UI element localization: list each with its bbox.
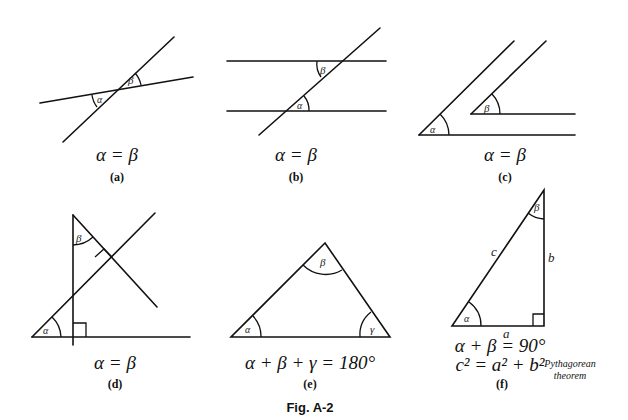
beta-arc [135, 73, 141, 85]
equation-d: α = β [94, 352, 136, 373]
line-2 [63, 37, 174, 142]
right-angle-marker-base [73, 323, 86, 337]
alpha-arc [253, 316, 261, 337]
caption-c: (c) [498, 170, 511, 184]
beta-label: β [319, 64, 326, 76]
panel-b: β α α = β (b) [227, 28, 386, 184]
beta-label: β [483, 102, 490, 114]
gamma-label: γ [370, 323, 375, 335]
panel-c: α β α = β (c) [419, 41, 575, 184]
pythagorean-note-line1: Pythagorean [543, 358, 595, 369]
side-c-label: c [491, 244, 497, 259]
alpha-label: α [245, 324, 251, 335]
alpha-arc [52, 317, 61, 337]
beta-label: β [319, 256, 326, 268]
perpendicular-line [73, 215, 157, 307]
pythagorean-note-line2: theorem [554, 370, 586, 381]
alpha-arc [304, 96, 309, 111]
beta-arc [528, 213, 544, 219]
slant-line-outer [419, 41, 514, 135]
side-b-label: b [548, 250, 555, 265]
transversal [259, 28, 380, 135]
figure-caption: Fig. A-2 [286, 400, 333, 415]
figure-a2: α β α = β (a) β α α = β (b) α β α = β (c… [0, 0, 628, 420]
triangle [231, 243, 390, 337]
equation-f: α + β = 90° [455, 335, 546, 356]
right-triangle [452, 190, 544, 326]
beta-label: β [75, 232, 82, 244]
caption-e: (e) [303, 377, 316, 391]
alpha-arc [469, 302, 481, 326]
alpha-label: α [43, 325, 49, 336]
panel-e: α β γ α + β + γ = 180° (e) Fig. A-2 [231, 243, 390, 415]
caption-f: (f) [496, 377, 508, 391]
caption-b: (b) [289, 170, 304, 184]
alpha-label: α [297, 100, 303, 111]
alpha-label: α [464, 313, 470, 324]
right-angle-marker [533, 314, 544, 326]
line-1 [40, 77, 193, 103]
panel-a: α β α = β (a) [40, 37, 193, 184]
alpha-arc [440, 114, 449, 135]
panel-d: α β α = β (d) [32, 213, 190, 391]
equation-b: α = β [275, 144, 317, 165]
alpha-label: α [97, 94, 103, 105]
equation-e: α + β + γ = 180° [245, 352, 375, 373]
diagonal-line [32, 213, 155, 337]
caption-d: (d) [108, 377, 123, 391]
beta-arc [492, 94, 500, 114]
beta-label: β [533, 201, 540, 213]
equation-a: α = β [96, 144, 138, 165]
slant-line-inner [471, 41, 546, 114]
panel-f: α β c b a α + β = 90° c² = a² + b² Pytha… [452, 190, 596, 391]
alpha-label: α [430, 124, 436, 135]
beta-label: β [127, 74, 134, 86]
caption-a: (a) [110, 170, 124, 184]
equation-c: α = β [484, 144, 526, 165]
pythagorean-equation: c² = a² + b² [455, 354, 544, 375]
